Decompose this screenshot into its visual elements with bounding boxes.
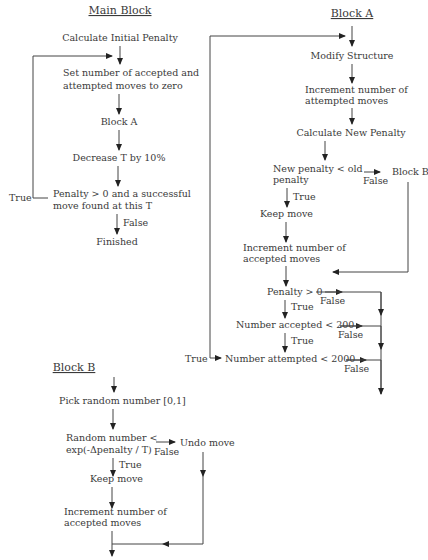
block-a: Block A Modify Structure Increment numbe… bbox=[185, 7, 428, 394]
connector bbox=[170, 476, 203, 544]
condition-penalty-gt-0: Penalty > 0 bbox=[267, 286, 323, 297]
label-false: False bbox=[344, 363, 370, 374]
label-true: True bbox=[291, 335, 314, 346]
label-false: False bbox=[320, 295, 346, 306]
step-keep-move: Keep move bbox=[90, 473, 143, 484]
block-b-title: Block B bbox=[53, 361, 96, 374]
step-pick-random: Pick random number [0,1] bbox=[59, 395, 186, 406]
condition-penalty-line2: move found at this T bbox=[53, 200, 153, 211]
step-finished: Finished bbox=[96, 236, 137, 247]
step-set-zero-line2: attempted moves to zero bbox=[63, 80, 183, 91]
condition-random-line1: Random number < bbox=[66, 432, 157, 443]
step-calc-new-penalty: Calculate New Penalty bbox=[296, 127, 406, 138]
step-undo-move: Undo move bbox=[180, 437, 235, 448]
label-false: False bbox=[154, 446, 180, 457]
label-true: True bbox=[185, 353, 208, 364]
step-inc-accepted-line2: accepted moves bbox=[64, 517, 141, 528]
step-block-a: Block A bbox=[101, 116, 138, 127]
main-block-title: Main Block bbox=[89, 4, 152, 17]
step-inc-accepted-line1: Increment number of bbox=[64, 506, 168, 517]
step-block-b: Block B bbox=[392, 166, 428, 177]
step-set-zero-line1: Set number of accepted and bbox=[63, 67, 199, 78]
return-from-block-b-arrow bbox=[333, 182, 408, 272]
step-inc-attempted-line2: attempted moves bbox=[305, 95, 388, 106]
label-false: False bbox=[123, 217, 149, 228]
step-decrease-t: Decrease T by 10% bbox=[73, 152, 166, 163]
condition-new-penalty-line1: New penalty < old bbox=[273, 163, 363, 174]
step-keep-move: Keep move bbox=[260, 208, 313, 219]
label-false: False bbox=[338, 329, 364, 340]
block-b: Block B Pick random number [0,1] Random … bbox=[53, 361, 235, 556]
condition-penalty-line1: Penalty > 0 and a successful bbox=[53, 188, 191, 199]
label-true: True bbox=[293, 191, 316, 202]
condition-random-line2: exp(-Δpenalty / T) bbox=[66, 444, 152, 455]
label-false: False bbox=[363, 175, 389, 186]
label-true: True bbox=[119, 459, 142, 470]
step-calculate-initial-penalty: Calculate Initial Penalty bbox=[62, 32, 178, 43]
step-inc-accepted-line1: Increment number of bbox=[243, 242, 347, 253]
step-inc-accepted-line2: accepted moves bbox=[243, 253, 320, 264]
simulated-annealing-flowchart: Main Block Calculate Initial Penalty Set… bbox=[0, 0, 428, 560]
condition-new-penalty-line2: penalty bbox=[273, 174, 309, 185]
condition-accepted-lt-200: Number accepted < 200 bbox=[236, 319, 354, 330]
label-true: True bbox=[9, 192, 32, 203]
step-inc-attempted-line1: Increment number of bbox=[305, 84, 409, 95]
main-block: Main Block Calculate Initial Penalty Set… bbox=[9, 4, 199, 247]
condition-attempted-lt-2000: Number attempted < 2000 bbox=[225, 353, 355, 364]
block-a-title: Block A bbox=[331, 7, 375, 20]
step-modify-structure: Modify Structure bbox=[311, 50, 394, 61]
label-true: True bbox=[291, 301, 314, 312]
